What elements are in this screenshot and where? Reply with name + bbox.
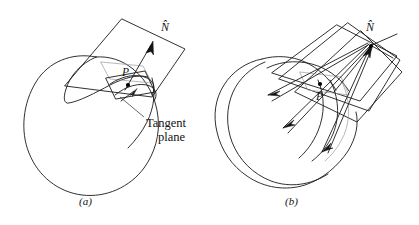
figure-drawing [0, 0, 419, 225]
panel-b-ray-arrowhead-2 [283, 120, 295, 128]
panel-b-converging-line-6 [328, 48, 372, 153]
panel-a-caption: (a) [79, 196, 92, 208]
panel-a-surface-edge-right [128, 78, 154, 148]
panel-a-normal-label: N̂ [161, 21, 169, 34]
panel-b-converging-line-4 [288, 46, 370, 133]
panel-b-normal-label: N̂ [366, 21, 374, 34]
panel-a-group [24, 19, 185, 195]
panel-b-point-p-marker [318, 82, 322, 86]
panel-a-surface-outline [24, 56, 159, 196]
panel-a-point-label: P [122, 66, 129, 78]
panel-a-annotation-line1: Tangent [146, 117, 186, 131]
panel-a-surface-contour [64, 57, 148, 103]
panel-a-normal-arrowhead [146, 41, 154, 55]
panel-a-point-p-marker [126, 83, 130, 87]
panel-b-tangent-plane-2 [279, 23, 400, 111]
panel-b-convergence-point [369, 44, 373, 48]
panel-a-annotation-line2: plane [158, 131, 185, 145]
panel-b-group [215, 23, 402, 188]
panel-b-converging-line-7 [372, 34, 397, 45]
panel-b-surface-contour [228, 62, 328, 185]
panel-b-caption: (b) [285, 196, 298, 208]
panel-a-annotation-leader [120, 97, 144, 117]
panel-b-point-label: P [316, 90, 323, 102]
figure-container: N̂ P Tangent plane (a) N̂ P (b) [0, 0, 419, 225]
